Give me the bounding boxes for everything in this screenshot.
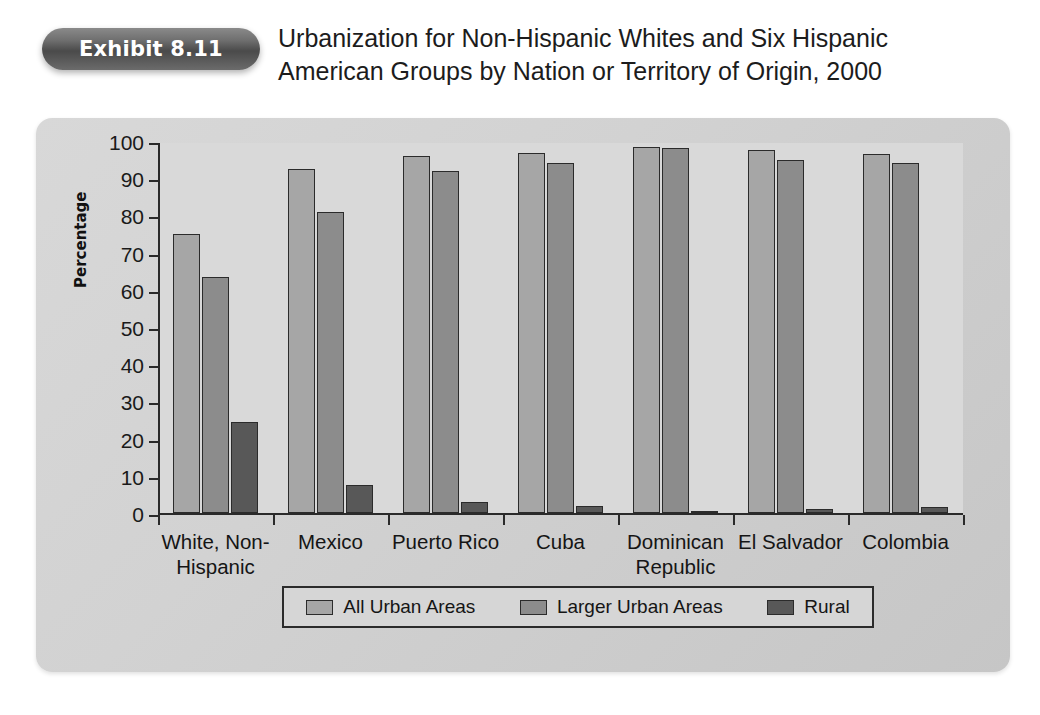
legend-swatch-icon	[767, 600, 794, 615]
y-axis-tick-label: 40	[88, 354, 144, 378]
y-axis-tick-label: 80	[88, 205, 144, 229]
legend-label: Rural	[804, 596, 849, 618]
bar-group	[848, 143, 963, 513]
x-axis-category-label-line: Colombia	[848, 529, 963, 554]
bar	[748, 150, 775, 513]
x-axis-category-label: Puerto Rico	[388, 529, 503, 554]
legend-item[interactable]: All Urban Areas	[306, 596, 475, 618]
bar	[231, 422, 258, 513]
bar-group	[273, 143, 388, 513]
x-axis-tick	[618, 515, 620, 525]
y-axis-tick-label: 100	[88, 131, 144, 155]
exhibit-number-label: Exhibit 8.11	[79, 37, 223, 61]
exhibit-header: Exhibit 8.11 Urbanization for Non-Hispan…	[0, 0, 1040, 118]
bar-group	[503, 143, 618, 513]
y-axis-tick-label: 70	[88, 243, 144, 267]
bar	[892, 163, 919, 513]
x-axis-tick	[158, 515, 160, 525]
x-axis-category-label: White, Non-Hispanic	[158, 529, 273, 579]
bar	[461, 502, 488, 513]
chart-title-line-2: American Groups by Nation or Territory o…	[278, 55, 998, 88]
legend-label: Larger Urban Areas	[557, 596, 723, 618]
x-axis-category-label: Colombia	[848, 529, 963, 554]
bar	[576, 506, 603, 513]
y-axis-tick-label: 90	[88, 168, 144, 192]
y-axis-tick-label: 60	[88, 280, 144, 304]
bar	[346, 485, 373, 513]
y-axis-tick	[149, 403, 158, 405]
x-axis-category-label-line: White, Non-	[158, 529, 273, 554]
x-axis-category-label-line: Puerto Rico	[388, 529, 503, 554]
bar	[202, 277, 229, 513]
bar	[633, 147, 660, 513]
legend-item[interactable]: Larger Urban Areas	[520, 596, 723, 618]
y-axis-tick	[149, 329, 158, 331]
x-axis-category-label-line: Republic	[618, 554, 733, 579]
x-axis-tick	[848, 515, 850, 525]
x-axis-category-label-line: Mexico	[273, 529, 388, 554]
bar	[863, 154, 890, 513]
legend-swatch-icon	[520, 600, 547, 615]
y-axis-tick	[149, 478, 158, 480]
y-axis-tick-label: 30	[88, 391, 144, 415]
x-axis-category-label-line: Dominican	[618, 529, 733, 554]
x-axis-tick	[963, 515, 965, 525]
y-axis-tick	[149, 255, 158, 257]
bar	[317, 212, 344, 513]
bar	[777, 160, 804, 513]
bar	[432, 171, 459, 513]
bar	[518, 153, 545, 513]
bar	[288, 169, 315, 513]
y-axis-tick	[149, 180, 158, 182]
y-axis-tick	[149, 366, 158, 368]
bar	[173, 234, 200, 513]
bar-group	[158, 143, 273, 513]
bar-group	[733, 143, 848, 513]
y-axis-tick-label: 50	[88, 317, 144, 341]
x-axis-tick	[388, 515, 390, 525]
plot-area: 1009080706050403020100 White, Non-Hispan…	[158, 143, 963, 515]
x-axis-category-label-line: Cuba	[503, 529, 618, 554]
legend-swatch-icon	[306, 600, 333, 615]
y-axis-tick-label: 20	[88, 429, 144, 453]
chart-legend: All Urban AreasLarger Urban AreasRural	[282, 586, 874, 628]
bar-group	[618, 143, 733, 513]
y-axis-tick	[149, 143, 158, 145]
x-axis-category-label: Cuba	[503, 529, 618, 554]
bar	[403, 156, 430, 513]
x-axis-tick	[503, 515, 505, 525]
bar	[691, 511, 718, 513]
chart-title: Urbanization for Non-Hispanic Whites and…	[278, 22, 998, 88]
x-axis-category-label: Mexico	[273, 529, 388, 554]
x-axis-tick	[733, 515, 735, 525]
legend-label: All Urban Areas	[343, 596, 475, 618]
y-axis-tick	[149, 441, 158, 443]
x-axis-line	[158, 513, 963, 515]
y-axis-tick-label: 0	[88, 503, 144, 527]
bar	[806, 509, 833, 513]
x-axis-tick	[273, 515, 275, 525]
x-axis-category-label-line: El Salvador	[733, 529, 848, 554]
y-axis-tick	[149, 292, 158, 294]
legend-item[interactable]: Rural	[767, 596, 849, 618]
chart-title-line-1: Urbanization for Non-Hispanic Whites and…	[278, 22, 998, 55]
bar	[662, 148, 689, 513]
chart-panel: Percentage 1009080706050403020100 White,…	[36, 118, 1010, 672]
exhibit-number-badge: Exhibit 8.11	[42, 28, 260, 70]
x-axis-category-label: El Salvador	[733, 529, 848, 554]
y-axis-tick	[149, 217, 158, 219]
y-axis-tick-label: 10	[88, 466, 144, 490]
x-axis-category-label: DominicanRepublic	[618, 529, 733, 579]
bar-group	[388, 143, 503, 513]
y-axis-tick	[149, 515, 158, 517]
bar	[547, 163, 574, 513]
bar	[921, 507, 948, 513]
x-axis-category-label-line: Hispanic	[158, 554, 273, 579]
